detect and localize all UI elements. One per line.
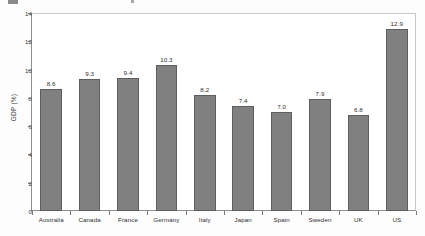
- bar-value-label: 12.9: [391, 20, 403, 27]
- y-tick-label: 0: [10, 208, 32, 215]
- bar-group: 12.9: [386, 13, 408, 211]
- x-tick-mark: [224, 211, 225, 215]
- bar-value-label: 7.0: [277, 103, 286, 110]
- bar-group: 10.3: [156, 13, 178, 211]
- bar-value-label: 8.6: [47, 80, 56, 87]
- y-tick-mark: [28, 41, 32, 42]
- x-tick-mark: [262, 211, 263, 215]
- x-tick-label: Sweden: [309, 216, 332, 223]
- bar-group: 9.3: [79, 13, 101, 211]
- bar: [40, 89, 62, 211]
- bar-group: 6.8: [348, 13, 370, 211]
- x-tick-label: Spain: [273, 216, 289, 223]
- bar-value-label: 7.9: [316, 90, 325, 97]
- bar-group: 7.9: [309, 13, 331, 211]
- x-tick-label: Germany: [153, 216, 179, 223]
- bar: [271, 112, 293, 211]
- bar-value-label: 7.4: [239, 97, 248, 104]
- bar: [156, 65, 178, 211]
- bar-group: 7.0: [271, 13, 293, 211]
- bar-group: 9.4: [117, 13, 139, 211]
- bar: [117, 78, 139, 211]
- bar-chart: GDP (%) 02468101214 8.69.39.410.38.27.47…: [0, 0, 425, 236]
- bar-group: 8.6: [40, 13, 62, 211]
- bar: [194, 95, 216, 211]
- y-tick-mark: [28, 98, 32, 99]
- x-tick-mark: [186, 211, 187, 215]
- x-tick-label: UK: [354, 216, 363, 223]
- x-tick-mark: [32, 211, 33, 215]
- x-tick-mark: [301, 211, 302, 215]
- x-tick-mark: [70, 211, 71, 215]
- y-tick-mark: [28, 183, 32, 184]
- y-axis-ticks: 02468101214: [0, 0, 32, 236]
- bar-value-label: 9.4: [124, 69, 133, 76]
- bar: [386, 29, 408, 211]
- x-tick-label: Australia: [39, 216, 64, 223]
- x-tick-label: US: [392, 216, 401, 223]
- x-tick-mark: [416, 211, 417, 215]
- bar: [309, 99, 331, 211]
- y-tick-mark: [28, 70, 32, 71]
- bar: [232, 106, 254, 211]
- x-tick-mark: [147, 211, 148, 215]
- bar-value-label: 10.3: [160, 56, 172, 63]
- y-tick-mark: [28, 126, 32, 127]
- bar-value-label: 6.8: [354, 106, 363, 113]
- x-tick-label: France: [118, 216, 138, 223]
- bar-group: 8.2: [194, 13, 216, 211]
- x-tick-mark: [339, 211, 340, 215]
- bar: [348, 115, 370, 211]
- x-tick-mark: [378, 211, 379, 215]
- bar-value-label: 8.2: [200, 86, 209, 93]
- x-axis-ticks: AustraliaCanadaFranceGermanyItalyJapanSp…: [32, 211, 416, 236]
- bar-group: 7.4: [232, 13, 254, 211]
- y-tick-mark: [28, 13, 32, 14]
- x-tick-mark: [109, 211, 110, 215]
- bar-value-label: 9.3: [85, 70, 94, 77]
- x-tick-label: Japan: [235, 216, 252, 223]
- x-tick-label: Italy: [199, 216, 211, 223]
- bar: [79, 79, 101, 211]
- scan-artifact-top-center: [131, 0, 134, 3]
- bars-layer: 8.69.39.410.38.27.47.07.96.812.9: [32, 13, 416, 211]
- y-tick-mark: [28, 154, 32, 155]
- x-tick-label: Canada: [78, 216, 100, 223]
